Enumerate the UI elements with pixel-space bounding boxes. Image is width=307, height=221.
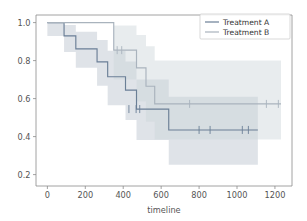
- x-tick-label: 200: [77, 190, 93, 200]
- x-tick-label: 800: [191, 190, 207, 200]
- x-tick-label: 1200: [265, 190, 286, 200]
- y-tick-label: 0.2: [17, 170, 30, 180]
- y-tick-label: 1.0: [17, 18, 30, 28]
- legend-label-treatment-b: Treatment B: [222, 28, 269, 37]
- x-tick-label: 600: [153, 190, 169, 200]
- survival-chart-figure: 020040060080010001200 0.20.40.60.81.0 ti…: [0, 0, 307, 221]
- y-tick-label: 0.6: [17, 94, 30, 104]
- legend-label-treatment-a: Treatment A: [222, 18, 270, 27]
- chart-legend[interactable]: Treatment A Treatment B: [200, 14, 290, 39]
- x-axis-title: timeline: [147, 205, 180, 215]
- chart-canvas: 020040060080010001200 0.20.40.60.81.0 ti…: [0, 0, 307, 221]
- x-tick-label: 0: [45, 190, 50, 200]
- x-tick-label: 1000: [227, 190, 248, 200]
- y-tick-label: 0.4: [17, 132, 30, 142]
- x-tick-label: 400: [115, 190, 131, 200]
- y-tick-label: 0.8: [17, 56, 30, 66]
